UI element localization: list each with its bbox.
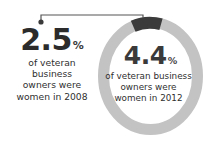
- infographic-root: 2.5 % of veteran business owners were wo…: [0, 0, 209, 146]
- stat-2012-value-row: 4.4 %: [124, 45, 177, 68]
- stat-2012-caption-line-3: women in 2012: [91, 93, 206, 104]
- stat-2008: 2.5 % of veteran business owners were wo…: [0, 26, 104, 102]
- stat-2008-caption: of veteran business owners were women in…: [0, 57, 104, 102]
- stat-2012-percent-sign: %: [167, 56, 178, 68]
- stat-2012-caption: of veteran business owners were women in…: [91, 71, 206, 103]
- stat-2012-caption-line-2: owners were: [91, 82, 206, 93]
- donut-center-content: 4.4 % of veteran business owners were wo…: [97, 16, 204, 136]
- stat-2008-percent-sign: %: [72, 40, 84, 53]
- stat-2008-value-row: 2.5 %: [0, 26, 104, 53]
- stat-2008-caption-line-1: of veteran: [0, 57, 104, 68]
- stat-2012-value: 4.4: [124, 45, 167, 68]
- stat-2012-caption-line-1: of veteran business: [91, 71, 206, 82]
- donut-chart: 4.4 % of veteran business owners were wo…: [97, 16, 204, 136]
- stat-2008-caption-line-4: women in 2008: [0, 91, 104, 102]
- stat-2008-value: 2.5: [20, 26, 72, 53]
- stat-2008-caption-line-2: business: [0, 68, 104, 79]
- stat-2008-caption-line-3: owners were: [0, 79, 104, 90]
